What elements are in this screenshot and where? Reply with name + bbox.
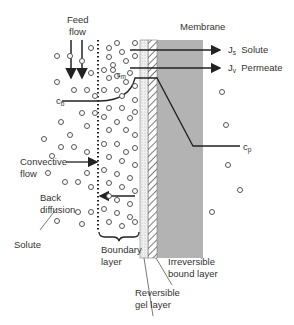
boundary-layer-brace (99, 232, 139, 241)
cp-label: cp (243, 141, 251, 155)
reversible-gel-label-1: Reversible (135, 287, 180, 298)
boundary-layer-label-2: layer (101, 256, 122, 267)
solute-flux-label: Js Solute (228, 44, 268, 58)
permeate-flux-label: Jv Permeate (228, 62, 282, 76)
reversible-gel-layer (140, 40, 148, 258)
feed-flow-label-1: Feed (67, 14, 89, 25)
irreversible-bound-label-1: Irreversible (168, 256, 215, 267)
feed-flow-label-2: flow (69, 26, 86, 37)
membrane (157, 40, 203, 258)
back-diffusion-label-1: Back (40, 192, 61, 203)
solute-label: Solute (14, 239, 41, 250)
cb-label: cb (56, 95, 64, 109)
convective-flow-label-1: Convective (20, 156, 67, 167)
irreversible-bound-layer (148, 40, 157, 258)
reversible-gel-label-2: gel layer (135, 299, 171, 310)
convective-flow-label-2: flow (20, 168, 37, 179)
irreversible-bound-label-2: bound layer (168, 268, 218, 279)
cm-label: cm (117, 69, 126, 82)
boundary-layer-label-1: Boundary (101, 244, 142, 255)
membrane-label: Membrane (180, 21, 225, 32)
back-diffusion-label-2: diffusion (40, 204, 75, 215)
